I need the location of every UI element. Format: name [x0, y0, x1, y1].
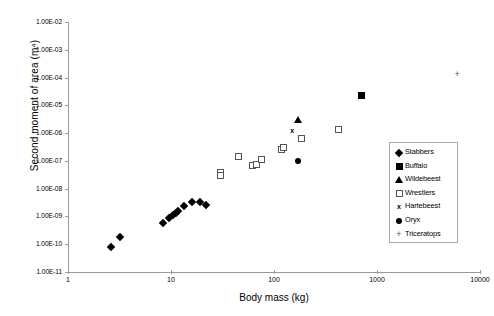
- y-tick-mark: [65, 216, 69, 217]
- y-tick-label: 1.00E-08: [16, 185, 62, 192]
- legend-item-wrestlers[interactable]: Wrestlers: [394, 187, 458, 200]
- y-tick-mark: [65, 105, 69, 106]
- data-point-stabbers: [116, 233, 124, 241]
- legend-label: Oryx: [405, 215, 420, 224]
- chart-legend: StabbersBuffaloWildebeestWrestlersxHarte…: [389, 142, 458, 243]
- y-tick-mark: [65, 50, 69, 51]
- data-point-wrestlers: [217, 172, 224, 179]
- legend-marker-filled-triangle-icon: [394, 173, 404, 186]
- x-axis-label: Body mass (kg): [68, 292, 480, 303]
- y-tick-label: 1.00E-04: [16, 74, 62, 81]
- data-point-stabbers: [202, 201, 210, 209]
- legend-label: Wrestlers: [405, 188, 435, 197]
- x-tick-mark: [274, 270, 275, 274]
- legend-marker-filled-diamond-icon: [395, 148, 403, 156]
- y-tick-label: 1.00E-06: [16, 129, 62, 136]
- legend-item-stabbers[interactable]: Stabbers: [394, 146, 458, 159]
- y-tick-mark: [65, 78, 69, 79]
- legend-item-buffalo[interactable]: Buffalo: [394, 160, 458, 173]
- x-tick-label: 10: [151, 276, 191, 283]
- legend-marker-open-square-icon: [396, 190, 403, 197]
- legend-marker-filled-diamond-icon: [394, 146, 404, 159]
- data-point-wildebeest: [294, 116, 302, 123]
- x-tick-mark: [68, 270, 69, 274]
- data-point-stabbers: [158, 219, 166, 227]
- legend-item-oryx[interactable]: Oryx: [394, 214, 458, 227]
- x-tick-mark: [480, 270, 481, 274]
- legend-label: Hartebeest: [405, 201, 440, 210]
- legend-marker-plus-icon: +: [395, 230, 403, 238]
- legend-item-hartebeest[interactable]: xHartebeest: [394, 200, 458, 213]
- legend-marker-filled-triangle-icon: [395, 176, 403, 183]
- data-point-wrestlers: [258, 156, 265, 163]
- data-point-wrestlers: [280, 144, 287, 151]
- legend-marker-filled-square-icon: [394, 160, 404, 173]
- legend-marker-open-square-icon: [394, 187, 404, 200]
- y-tick-label: 1.00E-02: [16, 18, 62, 25]
- y-tick-mark: [65, 22, 69, 23]
- legend-marker-filled-circle-icon: [396, 218, 402, 224]
- y-tick-label: 1.00E-10: [16, 240, 62, 247]
- y-tick-mark: [65, 189, 69, 190]
- y-tick-mark: [65, 133, 69, 134]
- data-point-oryx: [295, 158, 301, 164]
- legend-item-triceratops[interactable]: +Triceratops: [394, 228, 458, 241]
- y-tick-label: 1.00E-11: [16, 268, 62, 275]
- y-tick-label: 1.00E-07: [16, 157, 62, 164]
- x-tick-label: 10000: [460, 276, 494, 283]
- legend-marker-plus-icon: +: [394, 228, 404, 241]
- legend-marker-filled-square-icon: [396, 163, 403, 170]
- x-tick-mark: [377, 270, 378, 274]
- data-point-triceratops: +: [453, 70, 461, 78]
- legend-label: Wildebeest: [405, 174, 441, 183]
- legend-label: Buffalo: [405, 161, 427, 170]
- x-tick-mark: [171, 270, 172, 274]
- data-point-stabbers: [106, 243, 114, 251]
- y-tick-label: 1.00E-09: [16, 212, 62, 219]
- data-point-hartebeest: x: [289, 127, 296, 134]
- y-tick-label: 1.00E-05: [16, 101, 62, 108]
- y-tick-mark: [65, 244, 69, 245]
- y-tick-label: 1.00E-03: [16, 46, 62, 53]
- legend-marker-x-icon: x: [394, 200, 404, 213]
- x-tick-label: 100: [254, 276, 294, 283]
- x-tick-label: 1: [48, 276, 88, 283]
- legend-item-wildebeest[interactable]: Wildebeest: [394, 173, 458, 186]
- legend-marker-x-icon: x: [396, 203, 403, 210]
- legend-label: Stabbers: [405, 147, 434, 156]
- legend-marker-filled-circle-icon: [394, 214, 404, 227]
- y-tick-mark: [65, 161, 69, 162]
- y-axis-line: [68, 22, 69, 272]
- data-point-wrestlers: [335, 126, 342, 133]
- data-point-wrestlers: [235, 153, 242, 160]
- data-point-wrestlers: [298, 135, 305, 142]
- x-tick-label: 1000: [357, 276, 397, 283]
- data-point-buffalo: [358, 92, 365, 99]
- legend-label: Triceratops: [405, 229, 441, 238]
